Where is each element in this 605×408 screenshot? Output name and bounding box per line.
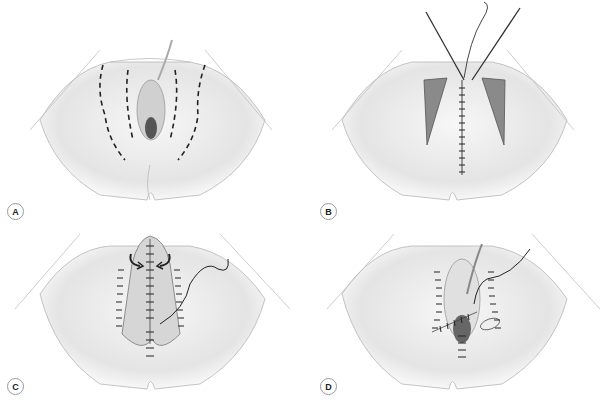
closure-illustration: [302, 204, 604, 408]
panel-c: C: [0, 204, 302, 408]
flap-suture-illustration: [302, 0, 604, 204]
flap-rotation-illustration: [0, 204, 302, 408]
incision-illustration: [0, 0, 302, 204]
panel-a: A: [0, 0, 302, 204]
panel-label-c: C: [7, 378, 24, 395]
panel-d: D: [302, 204, 604, 408]
panel-b: B: [302, 0, 604, 204]
panel-label-d: D: [320, 378, 337, 395]
